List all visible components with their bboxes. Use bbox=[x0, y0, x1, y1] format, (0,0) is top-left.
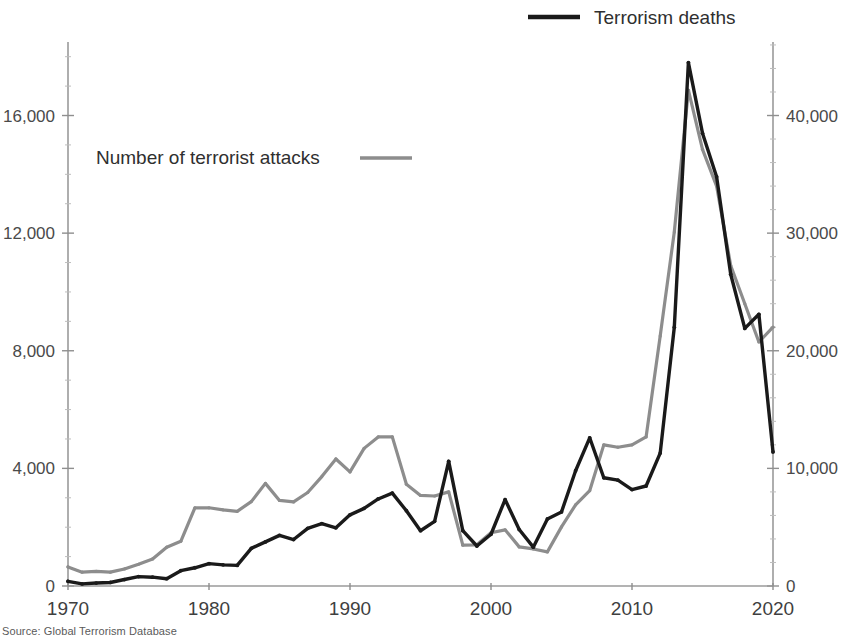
legend-attacks: Number of terrorist attacks bbox=[96, 147, 412, 168]
data-point bbox=[236, 510, 239, 513]
data-point bbox=[729, 272, 733, 276]
right-tick-label: 0 bbox=[786, 577, 795, 596]
data-point bbox=[109, 571, 112, 574]
data-point bbox=[362, 506, 366, 510]
data-point bbox=[630, 443, 633, 446]
data-point bbox=[80, 582, 84, 586]
data-point bbox=[531, 545, 535, 549]
x-tick-label: 1970 bbox=[47, 598, 89, 619]
data-point bbox=[461, 529, 465, 533]
data-point bbox=[743, 327, 747, 331]
data-point bbox=[771, 326, 774, 329]
data-point bbox=[616, 478, 620, 482]
data-point bbox=[264, 482, 267, 485]
data-point bbox=[179, 540, 182, 543]
series-plot-group bbox=[66, 61, 775, 586]
data-point bbox=[461, 544, 464, 547]
data-point bbox=[588, 489, 591, 492]
data-point bbox=[630, 488, 634, 492]
data-point bbox=[151, 557, 154, 560]
data-point bbox=[137, 563, 140, 566]
data-point bbox=[363, 447, 366, 450]
data-point bbox=[250, 500, 253, 503]
data-point bbox=[306, 526, 310, 530]
deaths-line bbox=[68, 63, 773, 584]
data-point bbox=[405, 509, 409, 513]
deaths-markers bbox=[66, 61, 775, 586]
data-point bbox=[602, 476, 606, 480]
data-point bbox=[348, 513, 352, 517]
data-point bbox=[193, 506, 196, 509]
data-point bbox=[95, 570, 98, 573]
right-tick-label: 20,000 bbox=[786, 342, 838, 361]
data-point bbox=[66, 579, 70, 583]
data-point bbox=[207, 562, 211, 566]
data-point bbox=[376, 497, 380, 501]
data-point bbox=[687, 61, 691, 65]
chart-canvas: 04,0008,00012,00016,000 010,00020,00030,… bbox=[0, 0, 841, 644]
data-point bbox=[320, 522, 324, 526]
data-point bbox=[405, 483, 408, 486]
data-point bbox=[771, 450, 775, 454]
right-tick-label: 30,000 bbox=[786, 224, 838, 243]
data-point bbox=[659, 334, 662, 337]
data-point bbox=[419, 529, 423, 533]
data-point bbox=[475, 544, 479, 548]
data-point bbox=[377, 435, 380, 438]
data-point bbox=[108, 581, 112, 585]
data-point bbox=[264, 540, 268, 544]
data-point bbox=[560, 510, 564, 514]
data-point bbox=[249, 546, 253, 550]
data-point bbox=[179, 569, 183, 573]
data-point bbox=[574, 503, 577, 506]
legend-attacks-label: Number of terrorist attacks bbox=[96, 147, 320, 168]
data-point bbox=[645, 435, 648, 438]
x-axis-tick-labels: 197019801990200020102020 bbox=[47, 598, 794, 619]
source-note: Source: Global Terrorism Database bbox=[2, 625, 177, 637]
data-point bbox=[757, 312, 761, 316]
data-point bbox=[334, 526, 338, 530]
data-point bbox=[616, 446, 619, 449]
data-point bbox=[503, 498, 507, 502]
data-point bbox=[504, 528, 507, 531]
data-point bbox=[673, 230, 676, 233]
data-point bbox=[658, 451, 662, 455]
data-point bbox=[207, 506, 210, 509]
data-point bbox=[517, 528, 521, 532]
data-point bbox=[447, 459, 451, 463]
data-point bbox=[560, 525, 563, 528]
terrorism-chart-figure: Terrorism deaths and attacks, 1970–2020 … bbox=[0, 0, 841, 644]
data-point bbox=[165, 577, 169, 581]
legend-deaths-label: Terrorism deaths bbox=[594, 7, 736, 28]
right-axis-tick-labels: 010,00020,00030,00040,000 bbox=[786, 107, 838, 596]
data-point bbox=[278, 534, 282, 538]
x-tick-label: 1990 bbox=[329, 598, 371, 619]
data-point bbox=[433, 519, 437, 523]
data-point bbox=[66, 565, 69, 568]
data-point bbox=[151, 575, 155, 579]
x-tick-label: 1980 bbox=[188, 598, 230, 619]
left-tick-label: 4,000 bbox=[12, 459, 55, 478]
data-point bbox=[320, 475, 323, 478]
data-point bbox=[221, 563, 225, 567]
legend-deaths: Terrorism deaths bbox=[528, 7, 736, 28]
right-axis-group: 010,00020,00030,00040,000 bbox=[767, 42, 838, 596]
x-tick-label: 2010 bbox=[611, 598, 653, 619]
data-point bbox=[306, 491, 309, 494]
data-point bbox=[447, 490, 450, 493]
data-point bbox=[165, 546, 168, 549]
data-point bbox=[574, 469, 578, 473]
data-point bbox=[222, 508, 225, 511]
left-tick-label: 0 bbox=[46, 577, 55, 596]
left-tick-label: 8,000 bbox=[12, 342, 55, 361]
data-point bbox=[334, 457, 337, 460]
x-tick-label: 2000 bbox=[470, 598, 512, 619]
x-axis-group: 197019801990200020102020 bbox=[47, 583, 794, 619]
data-point bbox=[518, 545, 521, 548]
data-point bbox=[391, 435, 394, 438]
data-point bbox=[123, 578, 127, 582]
data-point bbox=[715, 175, 719, 179]
data-point bbox=[94, 581, 98, 585]
right-tick-label: 10,000 bbox=[786, 459, 838, 478]
data-point bbox=[137, 575, 141, 579]
